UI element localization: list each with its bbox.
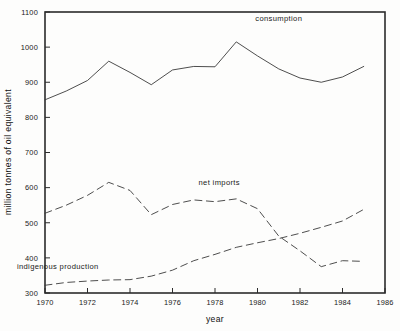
y-tick-label: 1100	[21, 8, 38, 17]
x-tick-label: 1974	[121, 298, 138, 307]
x-tick-label: 1984	[334, 298, 351, 307]
y-axis-tick-labels: 30040050060070080090010001100	[21, 8, 38, 298]
x-axis-title: year	[206, 314, 224, 324]
y-tick-label: 300	[25, 289, 38, 298]
series-line-consumption	[45, 42, 364, 100]
x-tick-label: 1980	[249, 298, 266, 307]
x-tick-label: 1982	[291, 298, 308, 307]
series-label-indigenous-production: indigenous production	[17, 262, 99, 271]
x-tick-label: 1976	[164, 298, 181, 307]
series-label-net-imports: net imports	[199, 178, 240, 187]
y-tick-label: 700	[25, 148, 38, 157]
y-tick-label: 800	[25, 113, 38, 122]
y-tick-label: 500	[25, 219, 38, 228]
y-tick-label: 900	[25, 78, 38, 87]
plot-frame	[45, 12, 385, 293]
x-tick-label: 1970	[36, 298, 53, 307]
y-tick-label: 1000	[21, 43, 38, 52]
series-lines	[45, 42, 364, 285]
x-axis-tick-labels: 197019721974197619781980198219841986	[36, 298, 393, 307]
y-axis-title: million tonnes of oil equivalent	[3, 89, 13, 215]
series-line-net-imports	[45, 182, 364, 266]
x-tick-label: 1972	[79, 298, 96, 307]
x-tick-label: 1978	[206, 298, 223, 307]
plot-border	[45, 12, 385, 293]
chart-canvas: 30040050060070080090010001100 1970197219…	[0, 0, 400, 331]
series-annotations: consumptionnet importsindigenous product…	[17, 14, 302, 271]
chart-figure: 30040050060070080090010001100 1970197219…	[0, 0, 400, 331]
y-tick-label: 600	[25, 183, 38, 192]
x-tick-label: 1986	[376, 298, 393, 307]
series-label-consumption: consumption	[255, 14, 302, 23]
series-line-indigenous-production	[45, 209, 364, 285]
